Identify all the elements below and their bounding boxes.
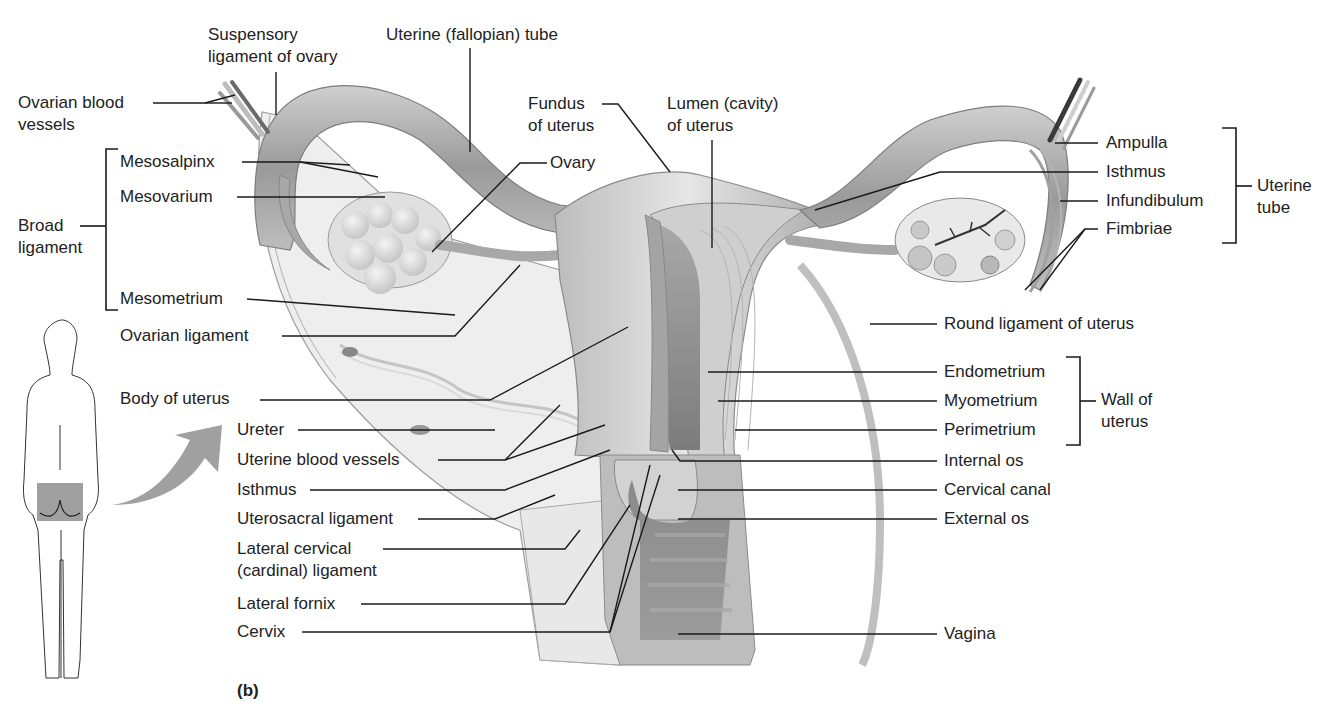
label-infundibulum: Infundibulum [1106,190,1203,212]
label-round-ligament: Round ligament of uterus [944,313,1134,335]
label-line: uterus [1101,411,1152,433]
label-fundus: Fundus of uterus [528,93,594,137]
label-external-os: External os [944,508,1029,530]
label-ovarian-blood-vessels: Ovarian blood vessels [18,92,124,136]
label-line: Lateral cervical [237,538,377,560]
label-line: Wall of [1101,389,1152,411]
label-cervical-canal: Cervical canal [944,479,1051,501]
label-mesometrium: Mesometrium [120,288,223,310]
label-body-of-uterus: Body of uterus [120,388,230,410]
label-ovarian-ligament: Ovarian ligament [120,325,249,347]
round-ligament-shape [800,265,880,665]
label-line: (cardinal) ligament [237,560,377,582]
label-line: Ovarian blood [18,92,124,114]
label-lumen: Lumen (cavity) of uterus [667,93,778,137]
label-mesovarium: Mesovarium [120,186,213,208]
label-line: Uterine [1257,175,1312,197]
label-suspensory-ligament: Suspensory ligament of ovary [208,24,337,68]
label-line: Lumen (cavity) [667,93,778,115]
label-uterine-fallopian-tube: Uterine (fallopian) tube [386,24,558,46]
wall-of-uterus-bracket [1066,357,1080,445]
panel-label: (b) [237,681,259,701]
label-myometrium: Myometrium [944,390,1038,412]
label-wall-of-uterus-group: Wall of uterus [1101,389,1152,433]
curved-arrow-icon [112,425,222,505]
left-ovarian-vessels-shape [220,82,268,138]
uterus-shape [555,172,820,462]
label-broad-ligament: Broad ligament [18,215,82,259]
broad-ligament-bracket [106,149,118,310]
label-line: vessels [18,114,124,136]
label-line: Fundus [528,93,594,115]
label-ovary: Ovary [550,152,595,174]
label-perimetrium: Perimetrium [944,419,1036,441]
label-line: ligament [18,237,82,259]
label-line: Broad [18,215,82,237]
label-lateral-fornix: Lateral fornix [237,593,335,615]
label-isthmus-left: Isthmus [237,479,297,501]
label-ampulla: Ampulla [1106,132,1167,154]
label-fimbriae: Fimbriae [1106,218,1172,240]
label-ureter: Ureter [237,419,284,441]
label-line: Suspensory [208,24,337,46]
broad-ligament-shape [259,112,625,665]
uterine-tube-bracket [1222,128,1236,243]
label-line: of uterus [528,115,594,137]
label-line: of uterus [667,115,778,137]
label-isthmus-right: Isthmus [1106,161,1166,183]
label-endometrium: Endometrium [944,361,1045,383]
label-uterine-blood-vessels: Uterine blood vessels [237,449,400,471]
label-cervix: Cervix [237,621,285,643]
label-line: ligament of ovary [208,46,337,68]
label-line: tube [1257,197,1312,219]
label-uterine-tube-group: Uterine tube [1257,175,1312,219]
label-uterosacral-ligament: Uterosacral ligament [237,508,393,530]
label-mesosalpinx: Mesosalpinx [120,151,215,173]
label-lateral-cervical-ligament: Lateral cervical (cardinal) ligament [237,538,377,582]
label-vagina: Vagina [944,623,996,645]
label-internal-os: Internal os [944,450,1023,472]
